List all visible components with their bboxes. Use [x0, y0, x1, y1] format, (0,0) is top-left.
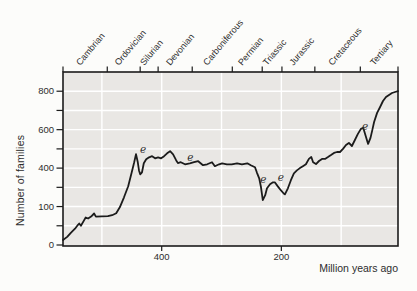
period-label: Devonian — [164, 32, 196, 68]
diversity-chart-plot: 8006004001000400200CambrianOrdovicianSil… — [0, 0, 417, 291]
x-tick-label: 400 — [154, 251, 170, 262]
period-label: Cambrian — [74, 31, 107, 67]
y-tick-label: 0 — [49, 239, 54, 250]
y-tick-label: 100 — [38, 201, 54, 212]
period-label: Cretaceous — [326, 25, 364, 67]
y-tick-label: 600 — [38, 124, 54, 135]
plot-background — [63, 72, 398, 246]
diversity-chart-figure: 8006004001000400200CambrianOrdovicianSil… — [0, 0, 417, 291]
y-tick-label: 800 — [38, 85, 54, 96]
period-label: Silurian — [138, 38, 165, 67]
extinction-marker: e — [278, 171, 284, 183]
period-label: Jurassic — [287, 35, 316, 67]
y-tick-label: 400 — [38, 162, 54, 173]
x-axis-title: Million years ago — [319, 262, 398, 274]
x-tick-label: 200 — [273, 251, 289, 262]
period-label: Permian — [236, 35, 265, 67]
period-label: Tertiary — [368, 38, 395, 67]
extinction-marker: e — [187, 151, 193, 163]
extinction-marker: e — [140, 143, 146, 155]
extinction-marker: e — [260, 173, 266, 185]
y-axis-title: Number of families — [14, 135, 26, 226]
extinction-marker: e — [362, 120, 368, 132]
